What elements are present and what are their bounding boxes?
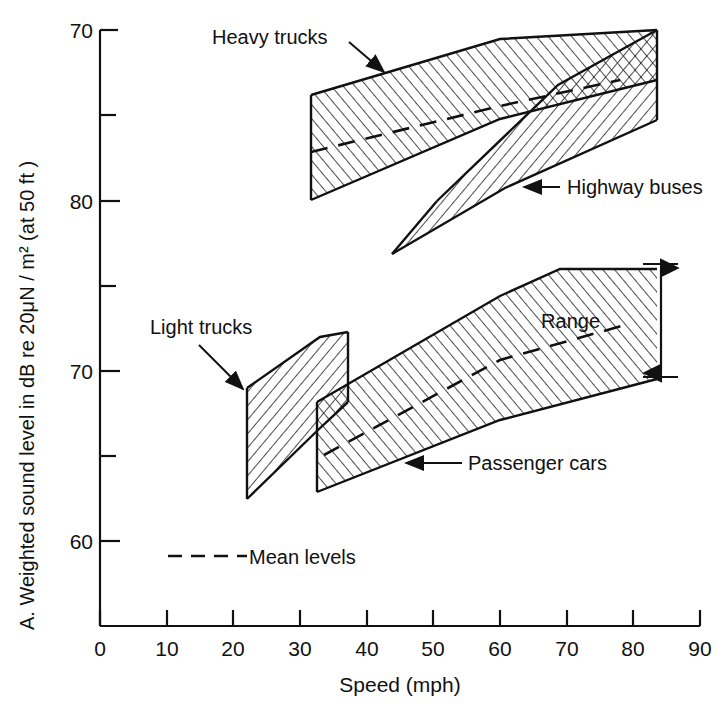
x-tick-label-4: 40 xyxy=(355,637,378,660)
x-tick-label-0: 0 xyxy=(94,637,106,660)
x-tick-label-3: 30 xyxy=(288,637,311,660)
highway-buses-label: Highway buses xyxy=(567,176,703,198)
chart-svg: 70 80 70 60 0 10 20 30 40 50 60 70 xyxy=(0,0,723,707)
y-axis-title: A. Weighted sound level in dB re 20μN / … xyxy=(16,161,38,630)
x-tick-label-8: 80 xyxy=(621,637,644,660)
x-tick-label-1: 10 xyxy=(155,637,178,660)
y-tick-label-3: 60 xyxy=(70,530,93,553)
x-axis-tick-labels: 0 10 20 30 40 50 60 70 80 90 xyxy=(94,637,712,660)
heavy-trucks-label: Heavy trucks xyxy=(212,26,328,48)
y-tick-label-0: 70 xyxy=(70,19,93,42)
y-tick-label-1: 80 xyxy=(70,190,93,213)
noise-vs-speed-chart: 70 80 70 60 0 10 20 30 40 50 60 70 xyxy=(0,0,723,707)
x-axis-ticks xyxy=(100,610,633,626)
x-tick-label-6: 60 xyxy=(488,637,511,660)
range-label: Range xyxy=(541,310,600,332)
mean-levels-label: Mean levels xyxy=(249,546,356,568)
annotation-highway-buses: Highway buses xyxy=(524,176,703,198)
x-tick-label-9: 90 xyxy=(688,637,711,660)
legend-mean-levels: Mean levels xyxy=(168,546,356,568)
x-tick-label-2: 20 xyxy=(221,637,244,660)
y-tick-label-2: 70 xyxy=(70,360,93,383)
annotation-light-trucks: Light trucks xyxy=(150,316,252,389)
y-axis-minor-ticks xyxy=(100,115,116,456)
annotation-passenger-cars: Passenger cars xyxy=(406,452,607,474)
y-axis-tick-labels: 70 80 70 60 xyxy=(70,19,93,553)
light-trucks-label: Light trucks xyxy=(150,316,252,338)
x-tick-label-5: 50 xyxy=(421,637,444,660)
heavy-trucks-leader-line xyxy=(349,42,384,72)
passenger-cars-label: Passenger cars xyxy=(468,452,607,474)
x-tick-label-7: 70 xyxy=(555,637,578,660)
light-trucks-leader-line xyxy=(199,345,243,389)
y-axis-major-ticks xyxy=(100,201,120,541)
annotation-heavy-trucks: Heavy trucks xyxy=(212,26,384,72)
x-axis-title: Speed (mph) xyxy=(339,673,460,696)
